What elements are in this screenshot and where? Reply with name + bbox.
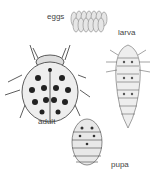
eggs-illustration [71,11,107,32]
pupa-label: pupa [111,160,129,169]
larva-illustration [106,45,150,128]
pupa-illustration [72,119,102,165]
eggs-label: eggs [47,12,64,21]
adult-label: adult [38,117,55,126]
larva-label: larva [118,28,135,37]
ladybug-lifecycle-diagram: eggs larva adult pupa [0,0,159,183]
adult-ladybug-illustration [5,45,90,122]
